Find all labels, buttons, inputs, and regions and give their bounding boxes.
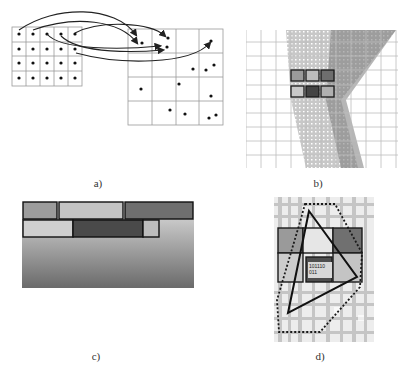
- bottom-row-blocks: [23, 220, 159, 237]
- point-mapping-diagram: [0, 0, 240, 170]
- caption-b: b): [303, 177, 333, 189]
- block-gradient-diagram: [22, 201, 194, 288]
- caption-c: c): [81, 350, 111, 362]
- target-points: [139, 36, 217, 119]
- center-cell-label: 101110 011: [308, 262, 332, 278]
- raster-texture: [246, 30, 398, 168]
- caption-d: d): [305, 350, 335, 362]
- panel-c: [22, 201, 194, 288]
- panel-b: [246, 30, 398, 168]
- caption-a: a): [83, 177, 113, 189]
- top-row-blocks: [23, 202, 193, 219]
- panel-d: 101110 011: [274, 197, 374, 342]
- mapping-arrows: [19, 12, 210, 61]
- panel-a: [0, 0, 240, 170]
